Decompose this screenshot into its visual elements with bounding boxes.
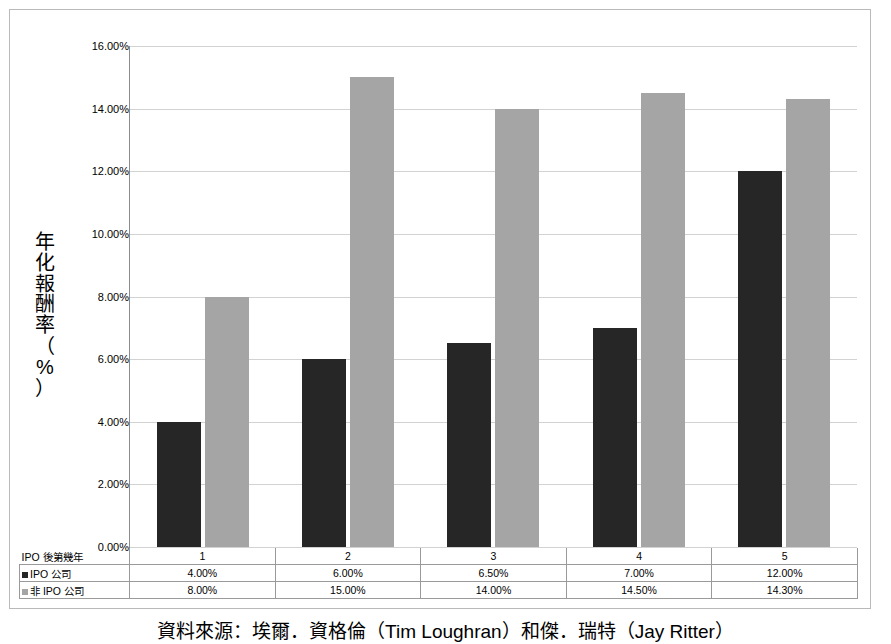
y-axis-tick-label: 16.00% [92,40,129,52]
table-row: 非 IPO 公司8.00%15.00%14.00%14.50%14.30% [20,582,858,599]
legend-swatch-ipo [22,572,28,578]
y-axis-tick-label: 10.00% [92,228,129,240]
y-axis-tick-mark [125,484,129,485]
data-table: IPO 後第幾年12345IPO 公司4.00%6.00%6.50%7.00%1… [19,548,858,599]
bar [738,171,782,547]
y-axis-tick-mark [125,422,129,423]
y-axis-tick-mark [125,46,129,47]
y-axis-title-char: 年 [28,232,62,253]
y-axis-tick-mark [125,171,129,172]
table-cell: 3 [421,548,567,565]
bar-group [712,46,857,547]
y-axis-tick-label: 14.00% [92,103,129,115]
legend-swatch-non-ipo [22,589,28,595]
table-cell: 4.00% [130,565,276,582]
table-cell: 2 [275,548,421,565]
table-cell: 12.00% [712,565,858,582]
bar [593,328,637,547]
y-axis-tick-mark [125,234,129,235]
plot-area [129,46,856,548]
y-axis-tick-mark [125,297,129,298]
bar [350,77,394,547]
chart-page: 年 化 報 酬 率 （ % ） 0.00%2.00%4.00%6.00%8.00… [0,0,891,644]
y-axis-title-char: （ [28,336,62,357]
bar-group [421,46,566,547]
table-cell: 7.00% [566,565,712,582]
y-axis-title-char: 化 [28,253,62,274]
bar-series-container [130,46,857,547]
bar [641,93,685,547]
bar [302,359,346,547]
y-axis-title-char: 報 [28,274,62,295]
y-axis-title: 年 化 報 酬 率 （ % ） [28,232,62,398]
table-cell: 8.00% [130,582,276,599]
bar-group [130,46,275,547]
table-row-label: IPO 公司 [20,565,130,582]
table-row: IPO 後第幾年12345 [20,548,858,565]
chart-frame: 年 化 報 酬 率 （ % ） 0.00%2.00%4.00%6.00%8.00… [9,9,871,609]
table-cell: 14.30% [712,582,858,599]
table-row: IPO 公司4.00%6.00%6.50%7.00%12.00% [20,565,858,582]
bar-group [566,46,711,547]
y-axis-title-char: % [28,357,62,378]
bar [205,297,249,548]
table-cell: 14.00% [421,582,567,599]
y-axis-title-char: ） [28,378,62,399]
y-axis-title-char: 酬 [28,294,62,315]
table-cell: 6.50% [421,565,567,582]
table-row-label: 非 IPO 公司 [20,582,130,599]
y-axis-tick-mark [125,359,129,360]
table-cell: 6.00% [275,565,421,582]
table-cell: 1 [130,548,276,565]
table-cell: 14.50% [566,582,712,599]
y-axis-tick-label: 12.00% [92,165,129,177]
bar [495,109,539,547]
table-cell: 15.00% [275,582,421,599]
table-cell: 5 [712,548,858,565]
table-cell: 4 [566,548,712,565]
table-row-label: IPO 後第幾年 [20,548,130,565]
y-axis-title-char: 率 [28,315,62,336]
bar-group [275,46,420,547]
bar [157,422,201,547]
source-caption: 資料來源：埃爾．資格倫（Tim Loughran）和傑．瑞特（Jay Ritte… [0,616,891,643]
bar [447,343,491,547]
y-axis-tick-mark [125,109,129,110]
bar [786,99,830,547]
